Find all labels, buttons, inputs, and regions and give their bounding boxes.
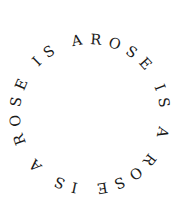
- ring-text: ROSE IS A ROSE IS A ROSE IS A: [7, 31, 173, 197]
- ring-text-path: ROSE IS A ROSE IS A ROSE IS A: [7, 31, 173, 197]
- circular-text-artwork: ROSE IS A ROSE IS A ROSE IS A: [0, 0, 190, 222]
